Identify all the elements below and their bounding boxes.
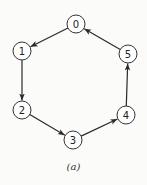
edge-5-to-0 bbox=[84, 29, 120, 50]
node-4: 4 bbox=[117, 106, 135, 124]
edge-2-to-3 bbox=[30, 115, 65, 136]
node-1: 1 bbox=[13, 42, 31, 60]
nodes-group: 012345 bbox=[13, 15, 137, 149]
node-2: 2 bbox=[13, 101, 31, 119]
edges-group bbox=[22, 28, 128, 136]
node-label: 3 bbox=[70, 135, 76, 146]
node-0: 0 bbox=[67, 15, 85, 33]
cycle-graph: 012345 bbox=[0, 0, 147, 185]
figure-caption: (a) bbox=[0, 161, 147, 172]
edge-0-to-1 bbox=[30, 28, 67, 47]
node-label: 4 bbox=[123, 110, 129, 121]
node-5: 5 bbox=[119, 45, 137, 63]
edge-3-to-4 bbox=[81, 119, 117, 136]
edge-4-to-5 bbox=[126, 63, 127, 106]
node-label: 5 bbox=[125, 49, 131, 60]
node-label: 1 bbox=[19, 46, 25, 57]
node-label: 2 bbox=[19, 105, 25, 116]
node-3: 3 bbox=[64, 131, 82, 149]
node-label: 0 bbox=[73, 19, 79, 30]
